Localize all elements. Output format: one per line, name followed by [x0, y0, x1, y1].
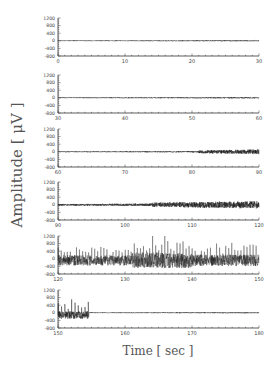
y-tick-label: 0	[52, 95, 55, 100]
panel-2: 12008004000-400-80030405060	[43, 73, 262, 121]
y-tick-label: -400	[45, 264, 56, 269]
x-tick-label: 40	[122, 115, 128, 121]
y-tick-label: -400	[45, 210, 56, 215]
eeg-chart: 12008004000-400-800010203012008004000-40…	[0, 0, 277, 373]
x-tick-label: 160	[120, 330, 130, 336]
y-tick-label: 1200	[43, 234, 55, 239]
y-tick-label: 1200	[43, 288, 55, 293]
y-tick-label: 800	[46, 134, 55, 139]
y-tick-label: -400	[45, 46, 56, 51]
x-tick-label: 140	[187, 276, 197, 282]
panel-6: 12008004000-400-800150160170180	[43, 288, 263, 336]
y-tick-label: 0	[52, 149, 55, 154]
y-tick-label: 800	[46, 80, 55, 85]
x-tick-label: 100	[120, 222, 130, 228]
y-tick-label: 0	[52, 202, 55, 207]
y-tick-label: 400	[46, 142, 55, 147]
x-tick-label: 30	[55, 115, 61, 121]
x-tick-label: 120	[254, 222, 264, 228]
panel-5: 12008004000-400-800120130140150	[43, 234, 263, 282]
y-tick-label: -800	[45, 165, 56, 170]
waveform-trace	[58, 40, 259, 41]
y-tick-label: 0	[52, 256, 55, 261]
y-tick-label: -800	[45, 111, 56, 116]
x-tick-label: 20	[189, 58, 195, 64]
y-tick-label: 1200	[43, 180, 55, 185]
y-tick-label: 400	[46, 303, 55, 308]
y-tick-label: 0	[52, 310, 55, 315]
panel-4: 12008004000-400-80090100110120	[43, 180, 263, 228]
x-tick-label: 120	[53, 276, 63, 282]
waveform-trace	[58, 201, 259, 208]
x-tick-label: 130	[120, 276, 130, 282]
waveform-trace	[58, 149, 259, 154]
x-tick-label: 170	[187, 330, 197, 336]
y-tick-label: -400	[45, 318, 56, 323]
y-tick-label: -400	[45, 103, 56, 108]
y-tick-label: 800	[46, 295, 55, 300]
y-tick-label: 800	[46, 241, 55, 246]
x-tick-label: 180	[254, 330, 264, 336]
waveform-trace	[58, 236, 259, 268]
y-tick-label: 400	[46, 88, 55, 93]
y-tick-label: 1200	[43, 73, 55, 78]
y-tick-label: 1200	[43, 127, 55, 132]
x-tick-label: 90	[55, 222, 61, 228]
x-tick-label: 30	[256, 58, 262, 64]
x-tick-label: 10	[122, 58, 128, 64]
x-tick-label: 50	[189, 115, 195, 121]
x-tick-label: 0	[56, 58, 59, 64]
y-axis-label: Amplitude [ μV ]	[8, 102, 26, 227]
y-tick-label: 800	[46, 187, 55, 192]
y-tick-label: 800	[46, 23, 55, 28]
y-tick-label: 1200	[43, 16, 55, 21]
x-tick-label: 70	[122, 169, 128, 175]
x-tick-label: 80	[189, 169, 195, 175]
y-tick-label: -400	[45, 157, 56, 162]
y-tick-label: 400	[46, 31, 55, 36]
panel-3: 12008004000-400-80060708090	[43, 127, 262, 175]
y-tick-label: -800	[45, 54, 56, 59]
y-tick-label: 400	[46, 195, 55, 200]
y-tick-label: -800	[45, 218, 56, 223]
x-tick-label: 90	[256, 169, 262, 175]
x-tick-label: 150	[254, 276, 264, 282]
panel-1: 12008004000-400-8000102030	[43, 16, 262, 64]
waveform-trace	[58, 97, 259, 98]
x-tick-label: 60	[256, 115, 262, 121]
y-tick-label: 0	[52, 38, 55, 43]
x-tick-label: 110	[187, 222, 197, 228]
y-tick-label: 400	[46, 249, 55, 254]
x-axis-label: Time [ sec ]	[122, 344, 193, 358]
waveform-trace	[58, 299, 259, 319]
x-tick-label: 60	[55, 169, 61, 175]
x-tick-label: 150	[53, 330, 63, 336]
